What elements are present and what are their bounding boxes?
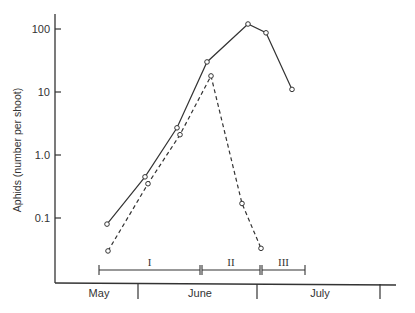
y-tick-label: 10 xyxy=(38,86,50,98)
solid-line xyxy=(107,24,292,224)
y-tick-label: 1.0 xyxy=(35,149,50,161)
period-label: I xyxy=(148,256,152,268)
y-tick-label: 0.1 xyxy=(35,212,50,224)
aphid-chart: 100101.00.1 Aphids (number per shoot) Ma… xyxy=(0,0,415,313)
data-point-marker xyxy=(240,201,245,206)
y-tick-label: 100 xyxy=(32,23,50,35)
period-bars: IIIIII xyxy=(99,256,305,275)
dashed-line xyxy=(108,76,261,251)
data-point-marker xyxy=(209,74,214,79)
data-point-marker xyxy=(143,175,148,180)
month-label: July xyxy=(310,287,330,299)
data-point-marker xyxy=(259,246,264,251)
data-point-marker xyxy=(175,126,180,131)
data-point-marker xyxy=(178,132,183,137)
data-series xyxy=(105,22,295,254)
data-point-marker xyxy=(146,181,151,186)
period-label: II xyxy=(227,256,235,268)
y-ticks: 100101.00.1 xyxy=(32,23,61,224)
data-point-marker xyxy=(106,249,111,254)
data-point-marker xyxy=(246,22,251,27)
month-label: June xyxy=(188,287,212,299)
data-point-marker xyxy=(290,87,295,92)
y-axis-title: Aphids (number per shoot) xyxy=(11,88,23,212)
data-point-marker xyxy=(264,31,269,36)
data-point-marker xyxy=(205,60,210,65)
data-point-marker xyxy=(105,222,110,227)
month-label: May xyxy=(89,287,110,299)
x-axis xyxy=(55,283,396,285)
period-label: III xyxy=(278,256,289,268)
month-axis: MayJuneJuly xyxy=(89,284,380,299)
